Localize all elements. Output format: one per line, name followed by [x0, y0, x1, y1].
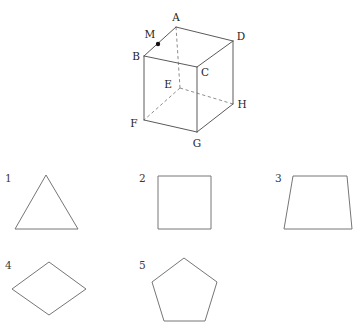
answer-shape-number-4: 4: [5, 259, 12, 271]
answer-shape-numbers: 12345: [5, 172, 282, 271]
cube-edge-BC: [144, 56, 197, 67]
marked-point-m: M: [145, 28, 161, 46]
answer-shape-triangle[interactable]: [15, 175, 78, 229]
cube-vertex-label-b: B: [132, 50, 140, 62]
marked-point-dot: [156, 42, 160, 46]
cube-vertex-label-a: A: [171, 11, 180, 23]
figure-canvas: ABCDEFGH M 12345: [0, 0, 362, 335]
answer-shape-number-5: 5: [139, 259, 146, 271]
cube-edge-GH: [197, 104, 233, 132]
cube-vertex-label-d: D: [237, 30, 245, 42]
answer-shape-number-1: 1: [5, 172, 12, 184]
answer-shape-square[interactable]: [158, 176, 211, 229]
cube-vertex-label-c: C: [201, 66, 209, 78]
cube-vertex-label-h: H: [237, 98, 246, 110]
answer-shape-number-3: 3: [275, 172, 282, 184]
cube-edge-AD: [176, 27, 233, 41]
cube-hidden-edge-AE: [176, 27, 180, 88]
cube-vertex-label-g: G: [193, 137, 201, 149]
answer-shape-trapezoid[interactable]: [284, 176, 352, 229]
cube-edge-FG: [144, 120, 197, 132]
answer-shape-number-2: 2: [139, 172, 146, 184]
cube-vertex-label-f: F: [130, 117, 137, 129]
cube-edge-CD: [197, 41, 233, 67]
cube-vertex-label-e: E: [164, 78, 172, 90]
answer-shape-pentagon[interactable]: [152, 258, 217, 321]
cube-hidden-edges: [144, 27, 233, 120]
cube-group: ABCDEFGH M: [130, 11, 246, 149]
marked-point-label-m: M: [145, 28, 156, 40]
answer-shapes-group: [12, 175, 352, 321]
cube-hidden-edge-EH: [180, 88, 233, 104]
cube-hidden-edge-EF: [144, 88, 180, 120]
geometry-worksheet-figure: ABCDEFGH M 12345: [0, 0, 362, 335]
answer-shape-rhombus[interactable]: [12, 262, 86, 315]
